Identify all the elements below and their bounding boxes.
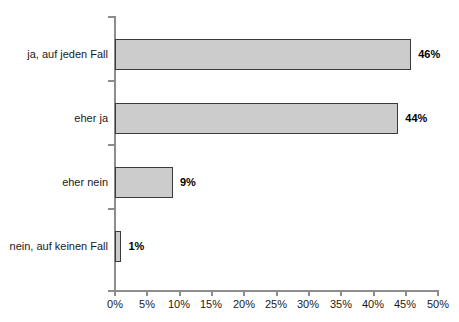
x-axis-tick-label: 50% [418,298,458,310]
x-axis-tick [146,290,148,296]
y-axis-tick [108,80,114,82]
x-axis-tick [114,290,116,296]
bar [115,231,121,262]
bar [115,103,398,134]
bar-value-label: 46% [418,39,440,70]
plot-area: ja, auf jeden Fall eher ja eher nein nei… [0,0,459,322]
x-axis-tick [437,290,439,296]
bar-chart: ja, auf jeden Fall eher ja eher nein nei… [0,0,459,322]
x-axis-tick [373,290,375,296]
y-axis-tick [108,208,114,210]
category-label: ja, auf jeden Fall [0,39,108,70]
x-axis-tick [405,290,407,296]
y-axis-tick [108,16,114,18]
x-axis-tick [308,290,310,296]
x-axis-tick [243,290,245,296]
x-axis-tick [276,290,278,296]
category-label: nein, auf keinen Fall [0,231,108,262]
x-axis-tick [179,290,181,296]
bar [115,39,411,70]
y-axis-tick [108,144,114,146]
x-axis-tick [211,290,213,296]
category-label: eher ja [0,103,108,134]
bar-value-label: 44% [405,103,427,134]
bar-value-label: 1% [128,231,144,262]
x-axis-tick [340,290,342,296]
category-label: eher nein [0,167,108,198]
bar [115,167,173,198]
bar-value-label: 9% [180,167,196,198]
